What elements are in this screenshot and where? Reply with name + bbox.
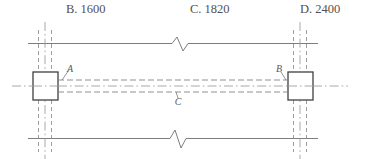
- point-label-a: A: [66, 63, 74, 74]
- answer-choice-c[interactable]: C. 1820: [190, 2, 230, 16]
- shaft-hidden-lines: [58, 80, 288, 92]
- point-label-b: B: [276, 63, 282, 74]
- point-label-c: C: [175, 96, 182, 107]
- top-rail: [28, 37, 318, 51]
- technical-drawing: A B C: [0, 22, 370, 159]
- answer-choices-row: B. 1600 C. 1820 D. 2400: [0, 0, 370, 22]
- bottom-rail: [28, 130, 318, 148]
- leader-lines: [62, 70, 286, 98]
- answer-choice-b[interactable]: B. 1600: [66, 2, 106, 16]
- answer-choice-d[interactable]: D. 2400: [300, 2, 340, 16]
